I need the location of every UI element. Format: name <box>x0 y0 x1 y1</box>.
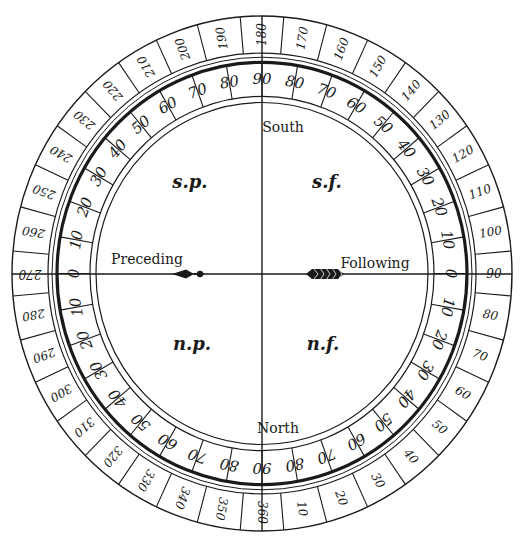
outer-scale-label: 120 <box>449 142 476 166</box>
inner-scale-label: 20 <box>427 194 451 219</box>
inner-scale-label: 10 <box>66 296 87 318</box>
inner-scale-label: 50 <box>370 409 397 435</box>
inner-scale-label: 60 <box>343 429 369 454</box>
inner-scale-label: 50 <box>128 111 155 137</box>
outer-scale-label: 30 <box>368 470 388 491</box>
direction-label-south: South <box>262 119 304 135</box>
outer-scale-label: 280 <box>21 306 47 324</box>
outer-scale-label: 200 <box>172 35 193 63</box>
outer-scale-label: 230 <box>71 107 99 133</box>
inner-scale-label: 60 <box>343 93 369 118</box>
inner-scale-label: 10 <box>66 228 87 250</box>
direction-label-north: North <box>257 420 299 436</box>
inner-scale-label: 40 <box>104 135 131 162</box>
inner-scale-label: 50 <box>127 409 154 435</box>
outer-scale-label: 330 <box>134 467 158 494</box>
quadrant-label-np: n.p. <box>173 333 211 354</box>
outer-scale-label: 170 <box>293 25 311 50</box>
outer-scale-label: 350 <box>213 496 231 521</box>
inner-scale-label: 60 <box>155 429 181 454</box>
preceding-arrowhead-icon <box>172 270 204 279</box>
outer-scale-label: 20 <box>332 488 351 508</box>
inner-scale-label: 30 <box>86 357 111 383</box>
outer-scale-label: 340 <box>172 485 193 512</box>
inner-scale-label: 20 <box>73 327 97 352</box>
quadrant-label-sf: s.f. <box>311 171 342 192</box>
inner-scale-label: 60 <box>155 93 181 118</box>
outer-scale-label: 250 <box>30 181 58 202</box>
outer-scale-label: 320 <box>100 443 126 470</box>
inner-scale-label: 30 <box>413 164 438 190</box>
inner-scale-label: 10 <box>437 229 458 251</box>
inner-scale-label: 50 <box>370 112 397 138</box>
outer-scale-label: 110 <box>467 181 494 202</box>
inner-scale-label: 40 <box>393 135 420 162</box>
outer-scale-label: 310 <box>71 414 98 440</box>
following-feather-icon <box>306 268 344 280</box>
outer-scale-label: 210 <box>134 53 158 81</box>
inner-scale-label: 80 <box>283 454 305 475</box>
inner-scale-label: 30 <box>412 358 437 384</box>
inner-scale-label: 70 <box>185 444 210 468</box>
outer-scale-label: 220 <box>100 77 126 105</box>
inner-scale-label: 30 <box>86 163 111 189</box>
outer-scale-label: 40 <box>400 445 421 467</box>
direction-label-following: Following <box>340 255 409 271</box>
outer-scale-label: 190 <box>213 25 231 50</box>
quadrant-label-nf: n.f. <box>307 333 340 354</box>
inner-scale-label: 70 <box>314 79 339 103</box>
inner-scale-label: 70 <box>185 79 210 103</box>
outer-scale-label: 10 <box>294 500 311 518</box>
outer-scale-label: 50 <box>429 417 450 438</box>
outer-scale-label: 60 <box>453 383 474 403</box>
inner-scale-label: 80 <box>284 72 306 93</box>
direction-label-preceding: Preceding <box>111 251 183 267</box>
outer-scale-label: 130 <box>426 107 453 133</box>
position-angle-dial: 1020304050607080901001101201301401501601… <box>0 0 522 544</box>
outer-scale-label: 150 <box>366 53 390 80</box>
outer-scale-label: 80 <box>482 307 500 324</box>
quadrant-label-sp: s.p. <box>171 171 207 192</box>
outer-scale-label: 100 <box>478 223 503 241</box>
outer-scale-label: 240 <box>47 142 75 166</box>
outer-scale-label: 290 <box>30 344 58 365</box>
inner-scale-label: 80 <box>218 72 240 93</box>
outer-scale-label: 160 <box>331 35 352 62</box>
inner-scale-label: 80 <box>218 454 240 475</box>
outer-scale-label: 140 <box>398 77 424 104</box>
inner-scale-label: 70 <box>314 444 339 468</box>
outer-scale-label: 260 <box>21 223 47 241</box>
inner-scale-label: 40 <box>104 385 131 412</box>
inner-scale-label: 40 <box>393 384 420 411</box>
inner-scale-label: 0 <box>65 268 83 278</box>
outer-scale-label: 70 <box>470 346 489 365</box>
outer-scale-label: 300 <box>47 381 74 405</box>
inner-scale-label: 10 <box>437 296 458 318</box>
inner-scale-label: 20 <box>73 195 97 220</box>
inner-scale-label: 20 <box>427 327 451 352</box>
